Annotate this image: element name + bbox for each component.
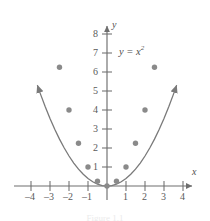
equation-annotation: y = x2 xyxy=(119,45,144,57)
data-point xyxy=(114,179,119,184)
y-tick-label-1: 1 xyxy=(93,162,98,172)
x-tick-label-3: 3 xyxy=(161,192,166,202)
data-point xyxy=(95,179,100,184)
y-tick-label-8: 8 xyxy=(93,29,98,39)
x-tick-label-4: 4 xyxy=(180,192,185,202)
x-axis-label: x xyxy=(192,167,196,177)
figure-caption: Figure 1.1 xyxy=(0,214,210,221)
data-point xyxy=(152,65,157,70)
data-point xyxy=(104,183,109,188)
data-point xyxy=(66,107,71,112)
y-tick-label-6: 6 xyxy=(93,67,98,77)
y-axis xyxy=(102,26,112,200)
figure-parabola-y-equals-x-squared: –4 –3 –2 –1 1 2 3 4 1 2 3 4 5 6 7 8 x y … xyxy=(0,0,210,221)
equation-exponent: 2 xyxy=(141,44,145,52)
x-tick-label-1: 1 xyxy=(123,192,128,202)
plot-canvas xyxy=(0,0,210,221)
x-tick-label-neg2: –2 xyxy=(63,192,73,202)
data-point xyxy=(76,141,81,146)
x-tick-label-neg1: –1 xyxy=(82,192,92,202)
y-tick-label-3: 3 xyxy=(93,124,98,134)
equation-base: y = x xyxy=(119,46,141,57)
x-tick-label-2: 2 xyxy=(142,192,147,202)
x-tick-label-neg4: –4 xyxy=(25,192,35,202)
y-tick-label-4: 4 xyxy=(93,105,98,115)
x-tick-label-neg3: –3 xyxy=(44,192,54,202)
y-tick-label-7: 7 xyxy=(93,48,98,58)
data-point xyxy=(133,141,138,146)
data-point xyxy=(142,107,147,112)
y-tick-label-5: 5 xyxy=(93,86,98,96)
y-axis-label: y xyxy=(112,20,116,30)
data-point xyxy=(123,164,128,169)
data-point xyxy=(57,65,62,70)
y-tick-label-2: 2 xyxy=(93,143,98,153)
data-point xyxy=(85,164,90,169)
